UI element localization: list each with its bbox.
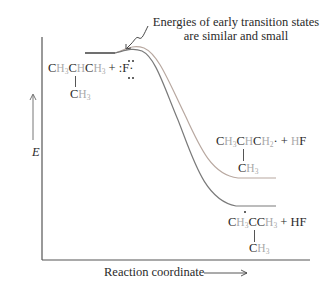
annotation-pointer-icon <box>126 26 148 49</box>
y-axis-arrow-icon <box>30 94 36 140</box>
reactant-branch: CH3 <box>70 87 90 105</box>
reactant-branch-bond <box>75 76 76 87</box>
annotation-text: Energies of early transition states are … <box>148 15 324 43</box>
product-primary-branch-bond <box>243 149 244 161</box>
product-tertiary-formula: CH3CCH3 + HF <box>228 215 306 233</box>
x-axis-arrow-icon <box>204 270 247 276</box>
annotation-line-1: Energies of early transition states <box>148 15 324 29</box>
fluorine-radical: :F· <box>119 61 134 75</box>
x-axis-label: Reaction coordinate <box>104 265 204 279</box>
product-tertiary-branch: CH3 <box>249 241 269 259</box>
product-primary-branch: CH3 <box>238 161 258 179</box>
primary-radical-curve <box>115 47 276 178</box>
plus-sign: + <box>109 61 116 75</box>
annotation-line-2: are similar and small <box>148 29 324 43</box>
tertiary-radical-curve <box>115 49 276 206</box>
reactant-formula: CH3CHCH3 + :F· <box>48 61 133 79</box>
product-primary-formula: CH3CHCH2· + HF <box>216 134 306 152</box>
radical-dot <box>244 211 246 213</box>
y-axis-label: E <box>32 145 40 159</box>
